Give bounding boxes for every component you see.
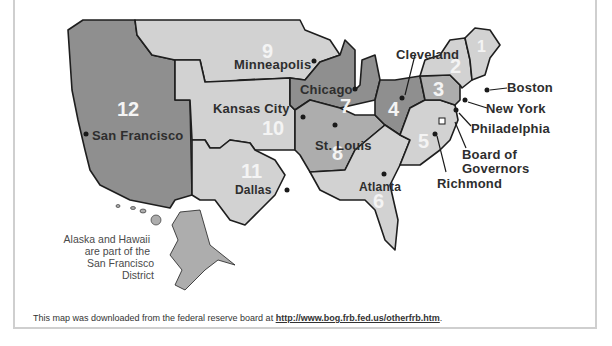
st-louis-dot	[333, 123, 338, 128]
source-caption: This map was downloaded from the federal…	[33, 313, 442, 323]
district-number-3: 3	[433, 78, 444, 101]
label-dallas: Dallas	[235, 183, 272, 197]
san-francisco-dot	[84, 132, 89, 137]
chicago-dot	[353, 87, 358, 92]
richmond-dot	[433, 132, 438, 137]
label-cleveland: Cleveland	[396, 47, 459, 62]
alaska-hawaii-note: Alaska and Hawaii are part of the San Fr…	[60, 233, 150, 281]
district-number-11: 11	[241, 160, 262, 183]
district-number-5: 5	[418, 130, 429, 153]
label-minneapolis: Minneapolis	[234, 57, 311, 72]
kansas-city-dot	[301, 115, 306, 120]
label-san-francisco: San Francisco	[92, 128, 183, 143]
minneapolis-dot	[312, 59, 317, 64]
label-atlanta: Atlanta	[359, 180, 401, 194]
district-number-10: 10	[262, 117, 284, 140]
label-new-york: New York	[486, 101, 546, 116]
label-richmond: Richmond	[437, 176, 502, 191]
atlanta-dot	[382, 172, 387, 177]
cleveland-dot	[400, 96, 405, 101]
label-kansas-city: Kansas City	[213, 101, 290, 116]
hawaii-islands	[116, 205, 161, 226]
label-boston: Boston	[507, 80, 553, 95]
district-number-1: 1	[477, 38, 486, 56]
district-number-7: 7	[340, 95, 351, 118]
boston-dot	[485, 88, 490, 93]
district-number-4: 4	[388, 98, 399, 121]
dallas-dot	[285, 188, 290, 193]
district-number-12: 12	[117, 98, 139, 121]
label-board-of-governors-2: Governors	[462, 161, 530, 176]
new-york-dot	[463, 98, 468, 103]
board-of-governors-marker	[439, 118, 445, 124]
label-st-louis: St. Louis	[315, 138, 372, 153]
label-board-of-governors-1: Board of	[462, 147, 517, 162]
source-link[interactable]: http://www.bog.frb.fed.us/otherfrb.htm	[276, 313, 440, 323]
label-chicago: Chicago	[300, 82, 353, 97]
label-philadelphia: Philadelphia	[471, 121, 550, 136]
philadelphia-dot	[454, 108, 459, 113]
alaska-region	[170, 210, 235, 290]
